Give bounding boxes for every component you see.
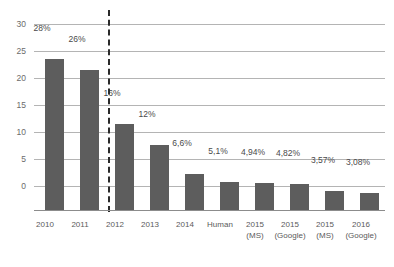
data-label-2012: 16%	[96, 89, 128, 98]
y-tick-label: 25	[4, 47, 26, 56]
bar-2015-ms	[255, 183, 274, 210]
cat-label-line1: 2012	[106, 220, 124, 229]
data-label-2016-google: 3,08%	[338, 158, 378, 167]
y-tick-label: 15	[4, 101, 26, 110]
data-label-human: 5,1%	[200, 147, 236, 156]
bar-2015-ms-2	[325, 191, 344, 210]
bar-2014	[185, 174, 204, 210]
y-tick-label: 10	[4, 128, 26, 137]
cat-label-line1: 2013	[141, 220, 159, 229]
cat-label-line1: 2016	[352, 220, 370, 229]
data-label-2014: 6,6%	[164, 139, 200, 148]
cat-label-line1: 2011	[71, 220, 88, 229]
data-label-2011: 26%	[61, 35, 93, 44]
bar-2012	[115, 124, 134, 210]
cat-label-line2: (Google)	[338, 231, 384, 242]
cat-label-line1: Human	[207, 220, 233, 229]
bar-2013	[150, 145, 169, 210]
bar-chart: 30 25 20 15 10 5 0 28% 26% 16% 12% 6,6%	[0, 0, 394, 267]
y-tick-label: 30	[4, 20, 26, 29]
y-tick-label: 5	[4, 155, 26, 164]
bar-2015-google	[290, 184, 309, 210]
divider-dashed-line	[108, 10, 110, 212]
data-label-2015-google: 4,82%	[268, 149, 308, 158]
data-label-2015-ms-2: 3,57%	[303, 156, 343, 165]
cat-label-line1: 2010	[36, 220, 54, 229]
cat-label-line1: 2014	[176, 220, 194, 229]
y-tick-label: 0	[4, 182, 26, 191]
y-tick-label: 20	[4, 74, 26, 83]
bar-2016-google	[360, 193, 379, 210]
cat-label-line1: 2015	[246, 220, 264, 229]
category-axis-line	[34, 210, 385, 211]
cat-label-line1: 2015	[316, 220, 334, 229]
bar-human	[220, 182, 239, 210]
data-label-2015-ms: 4,94%	[233, 148, 273, 157]
data-label-2010: 28%	[26, 24, 58, 33]
cat-label-2016-google: 2016 (Google)	[338, 220, 384, 242]
bar-2010	[45, 59, 64, 210]
bars-container	[34, 24, 385, 210]
cat-label-line1: 2015	[281, 220, 299, 229]
data-label-2013: 12%	[131, 110, 163, 119]
